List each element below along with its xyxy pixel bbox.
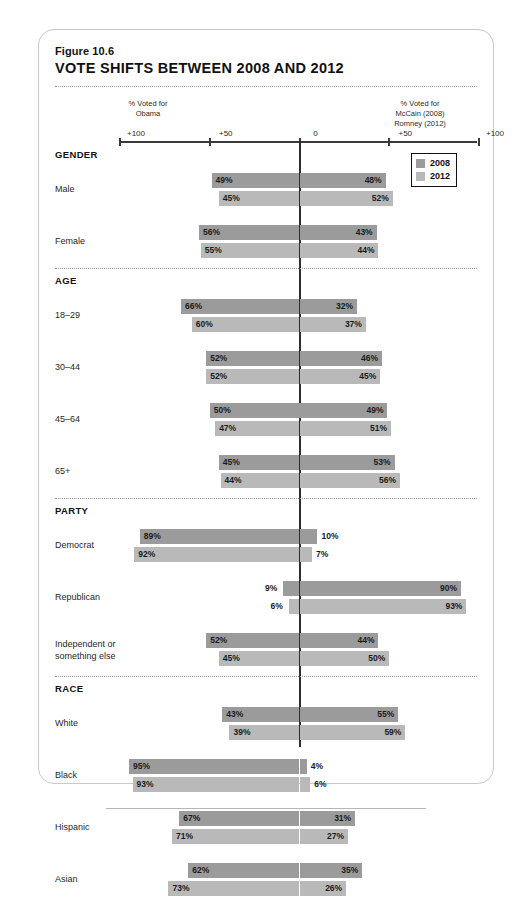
bar-label-2012-obama: 45% <box>223 191 240 206</box>
bar-label-2012-obama: 52% <box>210 369 227 384</box>
bar-pair-2012: 71%27% <box>55 829 477 844</box>
axis-caption-left: % Voted for Obama <box>93 99 203 119</box>
bar-label-2012-obama: 45% <box>223 651 240 666</box>
legend-item: 2008 <box>416 157 450 170</box>
bar-label-2012-gop: 6% <box>314 777 326 792</box>
bar-label-2012-obama: 93% <box>137 777 154 792</box>
bar-label-2008-obama: 45% <box>223 455 240 470</box>
bar-label-2008-gop: 46% <box>361 351 378 366</box>
chart-row: 30–4452%46%52%45% <box>55 342 477 394</box>
bar-label-2012-obama: 44% <box>225 473 242 488</box>
axis-caption-right: % Voted for McCain (2008) Romney (2012) <box>365 99 475 129</box>
bar-label-2012-gop: 27% <box>327 829 344 844</box>
chart-row-bars: 52%44%45%50% <box>55 624 477 676</box>
bar-2012-obama <box>133 777 300 792</box>
bar-label-2012-obama: 55% <box>205 243 222 258</box>
bar-pair-2012: 6%93% <box>55 599 477 614</box>
bar-2008-obama <box>140 529 300 544</box>
chart-row-bars: 66%32%60%37% <box>55 290 477 342</box>
bar-label-2012-gop: 51% <box>370 421 387 436</box>
bar-label-2012-gop: 52% <box>372 191 389 206</box>
bar-pair-2008: 62%35% <box>55 863 477 878</box>
chart-plot-area: GENDERMale49%48%45%52%Female56%43%55%44%… <box>55 141 477 773</box>
bar-pair-2012: 52%45% <box>55 369 477 384</box>
bar-label-2008-obama: 49% <box>216 173 233 188</box>
axis-caption-right-line2: McCain (2008) <box>365 109 475 119</box>
chart-row-bars: 56%43%55%44% <box>55 216 477 268</box>
bar-2012-gop <box>300 599 467 614</box>
bar-label-2008-gop: 55% <box>377 707 394 722</box>
bar-pair-2008: 52%44% <box>55 633 477 648</box>
axis-caption-left-line2: Obama <box>93 109 203 119</box>
bar-2012-obama <box>134 547 299 562</box>
bar-2008-obama <box>129 759 300 774</box>
chart-row: White43%55%39%59% <box>55 698 477 750</box>
bar-pair-2012: 73%26% <box>55 881 477 896</box>
legend-item: 2012 <box>416 170 450 183</box>
bar-label-2012-obama: 47% <box>219 421 236 436</box>
chart-row-bars: 43%55%39%59% <box>55 698 477 750</box>
bar-2008-gop <box>300 581 462 596</box>
bar-pair-2008: 56%43% <box>55 225 477 240</box>
bar-label-2008-obama: 89% <box>144 529 161 544</box>
chart-row: Female56%43%55%44% <box>55 216 477 268</box>
bar-pair-2012: 45%50% <box>55 651 477 666</box>
bar-pair-2008: 89%10% <box>55 529 477 544</box>
chart-row: 45–6450%49%47%51% <box>55 394 477 446</box>
bar-2008-obama <box>283 581 299 596</box>
axis-caption-left-line1: % Voted for <box>93 99 203 109</box>
chart-legend: 20082012 <box>411 153 457 187</box>
section-title: PARTY <box>55 499 477 520</box>
bar-label-2012-obama: 39% <box>233 725 250 740</box>
figure-card: Figure 10.6 VOTE SHIFTS BETWEEN 2008 AND… <box>38 29 494 784</box>
bar-label-2008-obama: 62% <box>192 863 209 878</box>
bar-label-2012-gop: 26% <box>325 881 342 896</box>
bar-label-2012-gop: 50% <box>368 651 385 666</box>
bar-2012-gop <box>300 547 313 562</box>
bar-label-2012-gop: 44% <box>357 243 374 258</box>
page-bottom-rule <box>106 808 426 809</box>
bar-label-2008-obama: 67% <box>183 811 200 826</box>
bar-label-2012-obama: 60% <box>196 317 213 332</box>
axis-tick-label: +100 <box>486 128 504 139</box>
bar-pair-2008: 95%4% <box>55 759 477 774</box>
bar-pair-2008: 50%49% <box>55 403 477 418</box>
bar-pair-2008: 43%55% <box>55 707 477 722</box>
bar-label-2008-gop: 35% <box>341 863 358 878</box>
bar-label-2008-gop: 31% <box>334 811 351 826</box>
bar-label-2008-obama: 9% <box>265 581 277 596</box>
bar-label-2012-gop: 45% <box>359 369 376 384</box>
bar-pair-2008: 67%31% <box>55 811 477 826</box>
chart-row: Hispanic67%31%71%27% <box>55 802 477 854</box>
chart-row: 65+45%53%44%56% <box>55 446 477 498</box>
bar-label-2008-obama: 43% <box>226 707 243 722</box>
chart-row-bars: 89%10%92%7% <box>55 520 477 572</box>
bar-label-2012-gop: 56% <box>379 473 396 488</box>
chart-row: Asian62%35%73%26% <box>55 854 477 900</box>
bar-label-2012-gop: 37% <box>345 317 362 332</box>
bar-pair-2012: 60%37% <box>55 317 477 332</box>
bar-label-2008-obama: 52% <box>210 633 227 648</box>
bar-pair-2008: 66%32% <box>55 299 477 314</box>
chart-row-bars: 62%35%73%26% <box>55 854 477 900</box>
bar-2012-obama <box>289 599 300 614</box>
figure-card-inner: Figure 10.6 VOTE SHIFTS BETWEEN 2008 AND… <box>39 30 493 783</box>
bar-pair-2008: 52%46% <box>55 351 477 366</box>
bar-label-2008-obama: 50% <box>214 403 231 418</box>
axis-caption-right-line1: % Voted for <box>365 99 475 109</box>
bar-pair-2012: 39%59% <box>55 725 477 740</box>
legend-label: 2008 <box>430 157 450 170</box>
bar-label-2008-gop: 53% <box>374 455 391 470</box>
chart-row: Democrat89%10%92%7% <box>55 520 477 572</box>
bar-label-2008-obama: 95% <box>133 759 150 774</box>
bar-pair-2012: 45%52% <box>55 191 477 206</box>
bar-label-2008-gop: 10% <box>321 529 338 544</box>
axis-tick-label: +50 <box>219 128 233 139</box>
bar-label-2012-obama: 92% <box>138 547 155 562</box>
bar-label-2008-gop: 44% <box>357 633 374 648</box>
chart-row-bars: 67%31%71%27% <box>55 802 477 854</box>
bar-pair-2012: 44%56% <box>55 473 477 488</box>
chart-row-bars: 9%90%6%93% <box>55 572 477 624</box>
bar-label-2008-gop: 43% <box>356 225 373 240</box>
